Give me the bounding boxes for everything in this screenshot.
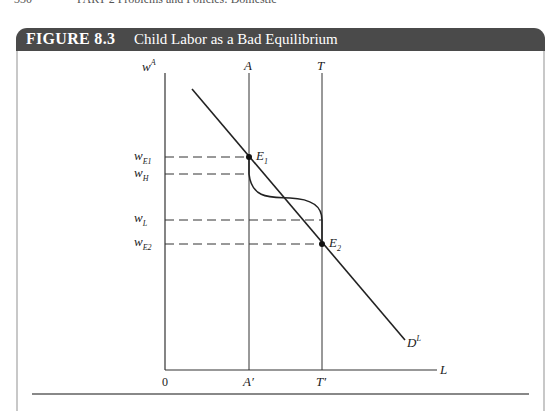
label-wE1: wE1 xyxy=(134,148,152,166)
label-a: A xyxy=(243,58,252,73)
label-wL: wL xyxy=(134,210,148,228)
label-t-prime: T′ xyxy=(316,374,326,389)
label-e2: E2 xyxy=(328,235,341,253)
y-axis-label: wA xyxy=(142,58,156,74)
demand-curve xyxy=(192,89,405,340)
x-axis-label: L xyxy=(439,362,447,377)
equilibrium-point-e1 xyxy=(246,154,252,160)
equilibrium-point-e2 xyxy=(319,241,325,247)
figure-bottom-rule xyxy=(32,393,529,395)
label-demand: DL xyxy=(406,334,421,350)
label-e1: E1 xyxy=(255,148,268,166)
label-t: T xyxy=(317,58,325,73)
label-wE2: wE2 xyxy=(134,234,152,252)
label-wH: wH xyxy=(134,165,150,183)
label-a-prime: A′ xyxy=(242,374,254,389)
origin-label: 0 xyxy=(162,375,168,389)
